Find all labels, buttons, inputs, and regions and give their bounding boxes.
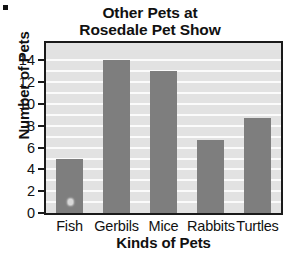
x-tick-label-rabbits: Rabbits: [187, 218, 234, 234]
chart-title-line-1: Other Pets at: [0, 4, 300, 21]
y-tick-6: 6: [27, 141, 44, 155]
y-tick-label: 12: [19, 75, 35, 89]
bar-mice: [150, 71, 176, 213]
y-tick-label: 10: [19, 97, 35, 111]
y-tick-0: 0: [27, 206, 44, 220]
x-axis-title: Kinds of Pets: [44, 234, 283, 251]
y-tick-14: 14: [19, 53, 44, 67]
plot-area: [44, 41, 283, 215]
y-tick-label: 6: [27, 141, 35, 155]
x-tick-label-fish: Fish: [46, 218, 93, 234]
bar-gerbils: [103, 60, 129, 213]
y-tick-4: 4: [27, 162, 44, 176]
bar-rabbits: [197, 140, 223, 213]
y-axis-ticks: 02468101214: [0, 0, 44, 255]
y-tick-label: 8: [27, 119, 35, 133]
y-tick-label: 14: [19, 53, 35, 67]
x-tick-label-gerbils: Gerbils: [93, 218, 140, 234]
bars-layer: [46, 43, 281, 213]
x-tick-label-turtles: Turtles: [234, 218, 281, 234]
y-tick-2: 2: [27, 184, 44, 198]
y-tick-label: 2: [27, 184, 35, 198]
y-tick-label: 0: [27, 206, 35, 220]
bar-turtles: [244, 118, 270, 213]
chart-title: Other Pets at Rosedale Pet Show: [0, 4, 300, 38]
y-tick-12: 12: [19, 75, 44, 89]
y-tick-label: 4: [27, 162, 35, 176]
x-tick-label-mice: Mice: [140, 218, 187, 234]
chart-title-line-2: Rosedale Pet Show: [0, 21, 300, 38]
y-tick-8: 8: [27, 119, 44, 133]
y-tick-10: 10: [19, 97, 44, 111]
scan-artifact-speck: [68, 199, 73, 205]
